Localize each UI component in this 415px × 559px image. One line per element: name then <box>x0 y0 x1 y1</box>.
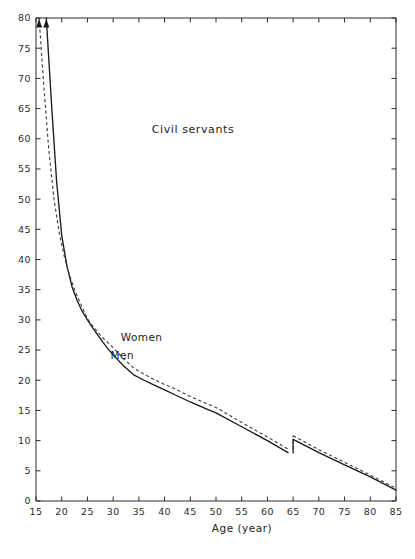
y-tick-label-60: 60 <box>18 133 31 144</box>
x-tick-label-40: 40 <box>158 506 171 517</box>
x-axis-title: Age (year) <box>212 522 272 534</box>
x-axis-tick-labels: 152025303540455055606570758085 <box>30 506 403 517</box>
x-tick-label-75: 75 <box>338 506 351 517</box>
x-tick-label-50: 50 <box>210 506 223 517</box>
y-tick-label-65: 65 <box>18 103 31 114</box>
x-tick-label-30: 30 <box>107 506 120 517</box>
x-tick-label-70: 70 <box>312 506 325 517</box>
chart-svg: 05101520253035404550556065707580 1520253… <box>0 0 415 559</box>
x-tick-label-80: 80 <box>364 506 377 517</box>
y-tick-label-10: 10 <box>18 435 31 446</box>
series-label-women: Women <box>121 331 163 343</box>
x-tick-label-35: 35 <box>132 506 145 517</box>
series-label-men: Men <box>111 349 134 361</box>
y-tick-label-40: 40 <box>18 254 31 265</box>
y-tick-label-5: 5 <box>25 465 31 476</box>
y-tick-label-15: 15 <box>18 405 31 416</box>
x-tick-label-65: 65 <box>287 506 300 517</box>
chart-figure: 05101520253035404550556065707580 1520253… <box>0 0 415 559</box>
y-tick-label-75: 75 <box>18 43 31 54</box>
x-tick-label-60: 60 <box>261 506 274 517</box>
x-tick-label-25: 25 <box>81 506 94 517</box>
x-tick-label-55: 55 <box>235 506 248 517</box>
x-tick-label-20: 20 <box>55 506 68 517</box>
figure-background <box>0 0 415 559</box>
x-tick-label-15: 15 <box>30 506 43 517</box>
y-tick-label-20: 20 <box>18 375 31 386</box>
y-tick-label-25: 25 <box>18 344 31 355</box>
y-tick-label-45: 45 <box>18 224 31 235</box>
y-tick-label-50: 50 <box>18 194 31 205</box>
y-tick-label-35: 35 <box>18 284 31 295</box>
plot-title: Civil servants <box>152 123 235 136</box>
y-tick-label-80: 80 <box>18 12 31 23</box>
x-tick-label-45: 45 <box>184 506 197 517</box>
y-tick-label-70: 70 <box>18 73 31 84</box>
y-tick-label-30: 30 <box>18 314 31 325</box>
y-tick-label-55: 55 <box>18 163 31 174</box>
x-tick-label-85: 85 <box>390 506 403 517</box>
